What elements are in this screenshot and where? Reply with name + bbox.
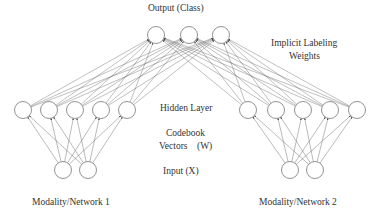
edge: [57, 38, 213, 106]
edge: [28, 117, 59, 163]
implicit-weights-label-line2: Weights: [289, 51, 320, 61]
modality-1-label: Modality/Network 1: [32, 197, 110, 207]
output-node: [213, 27, 230, 44]
hidden-node-right: [268, 102, 285, 119]
hidden-node-left: [41, 102, 58, 119]
edge: [68, 117, 97, 163]
edge: [227, 41, 296, 105]
edge: [106, 42, 151, 103]
hidden-node-right: [349, 102, 366, 119]
hidden-node-left: [119, 102, 136, 119]
edge: [51, 118, 61, 161]
edge: [132, 42, 183, 104]
edge: [56, 39, 181, 106]
edge: [228, 40, 323, 105]
edge: [164, 38, 349, 107]
edge: [305, 118, 314, 161]
output-node: [181, 27, 198, 44]
edge: [29, 116, 82, 164]
edge: [254, 116, 308, 165]
hidden-layer-label: Hidden Layer: [160, 103, 213, 113]
edge: [320, 117, 352, 163]
edge: [253, 117, 285, 163]
input-node-right: [307, 162, 324, 179]
edge: [82, 40, 182, 106]
hidden-node-right: [295, 102, 312, 119]
hidden-node-left: [67, 102, 84, 119]
edge: [228, 39, 349, 106]
edge: [108, 40, 214, 106]
codebook-label-line1: Codebook: [166, 128, 205, 138]
input-node-left: [55, 162, 72, 179]
edge: [31, 38, 182, 106]
edge: [130, 43, 153, 102]
output-layer-label: Output (Class): [148, 3, 204, 13]
input-node-left: [80, 162, 97, 179]
hidden-node-right: [322, 102, 339, 119]
hidden-node-left: [93, 102, 110, 119]
edge: [196, 40, 296, 106]
hidden-node-right: [240, 102, 257, 119]
edge: [93, 117, 123, 163]
edge: [54, 117, 84, 163]
edge: [317, 118, 328, 162]
implicit-weights-label-line1: Implicit Labeling: [271, 38, 337, 48]
edge: [69, 116, 121, 164]
edge: [30, 39, 148, 106]
input-node-right: [282, 162, 299, 179]
edge: [195, 41, 269, 105]
hidden-node-left: [15, 102, 32, 119]
modality-2-label: Modality/Network 2: [259, 197, 337, 207]
edge: [296, 116, 350, 165]
output-node: [148, 27, 165, 44]
input-layer-label: Input (X): [163, 166, 199, 176]
codebook-label-line2: Vectors (W): [159, 141, 212, 151]
edge: [197, 38, 349, 106]
